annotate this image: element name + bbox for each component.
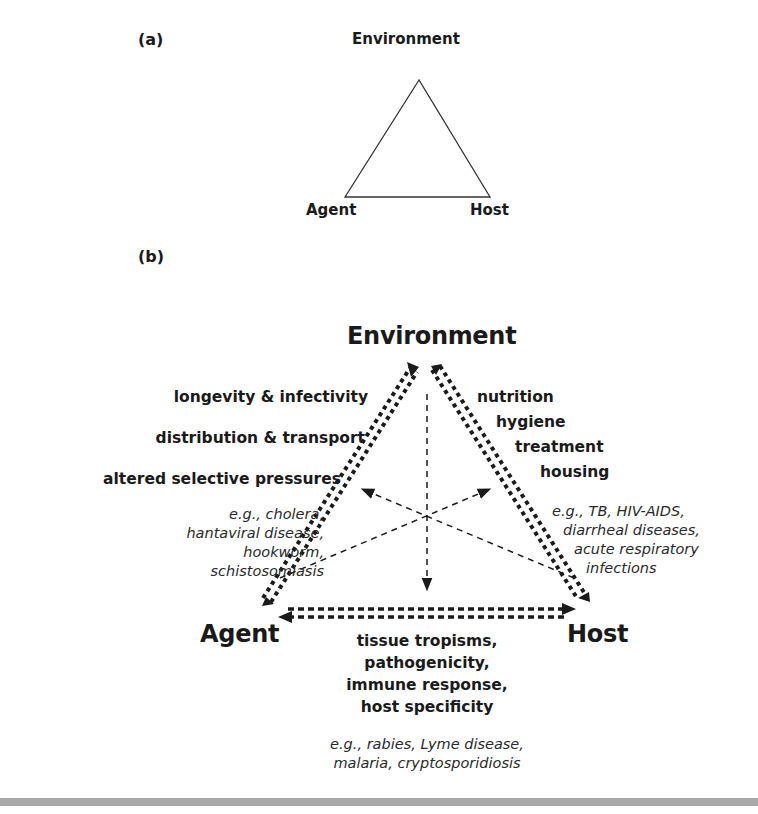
example-line: infections <box>552 559 700 578</box>
arrowhead-host-down <box>578 592 590 602</box>
example-line: acute respiratory <box>552 540 700 559</box>
arrowhead-host-right <box>562 603 576 615</box>
agent-host-factor: pathogenicity, <box>307 652 547 674</box>
example-line: e.g., cholera, <box>186 505 324 524</box>
host-environment-factor: nutrition <box>477 388 554 406</box>
agent-host-examples: e.g., rabies, Lyme disease, malaria, cry… <box>287 735 567 773</box>
example-line: e.g., rabies, Lyme disease, <box>287 735 567 754</box>
agent-environment-examples: e.g., cholera, hantaviral disease, hookw… <box>186 505 324 581</box>
agent-environment-factor: distribution & transport <box>156 429 365 447</box>
arrowhead-agent-left <box>278 611 292 623</box>
example-line: malaria, cryptosporidiosis <box>287 754 567 773</box>
bottom-rule <box>0 798 758 806</box>
panel-b-environment-label: Environment <box>347 322 516 350</box>
host-environment-factor: treatment <box>515 438 604 456</box>
panel-a-triangle <box>345 80 490 197</box>
agent-environment-factor: longevity & infectivity <box>174 388 368 406</box>
panel-b-host-label: Host <box>567 620 628 648</box>
example-line: e.g., TB, HIV-AIDS, <box>552 502 700 521</box>
agent-host-factor: tissue tropisms, <box>307 630 547 652</box>
host-environment-factor: hygiene <box>496 413 566 431</box>
agent-host-arrow <box>278 603 576 623</box>
example-line: hookworm, <box>186 543 324 562</box>
agent-host-factor: host specificity <box>307 696 547 718</box>
example-line: hantaviral disease, <box>186 524 324 543</box>
agent-host-factors: tissue tropisms, pathogenicity, immune r… <box>307 630 547 718</box>
agent-environment-factor: altered selective pressures <box>103 470 341 488</box>
panel-b-label: (b) <box>138 247 164 266</box>
agent-host-factor: immune response, <box>307 674 547 696</box>
example-line: schistosomiasis <box>186 562 324 581</box>
panel-b-agent-label: Agent <box>200 620 279 648</box>
host-environment-factor: housing <box>540 463 609 481</box>
host-environment-examples: e.g., TB, HIV-AIDS, diarrheal diseases, … <box>552 502 700 578</box>
example-line: diarrheal diseases, <box>552 521 700 540</box>
